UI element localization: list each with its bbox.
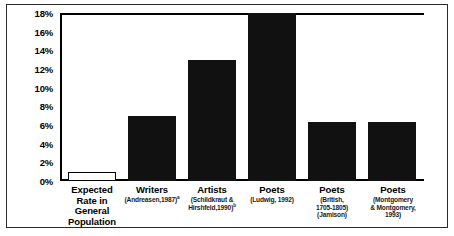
y-tick-14: 14% <box>35 45 53 56</box>
bar-artists <box>188 60 236 181</box>
y-tick-12: 12% <box>35 64 53 75</box>
y-tick-10: 10% <box>35 82 53 93</box>
bar-slot-poets-ludwig <box>248 13 296 181</box>
y-tick-0: 0% <box>40 176 53 187</box>
bar-poets-jamison <box>308 122 356 181</box>
bar-slot-artists <box>188 13 236 181</box>
bar-chart-figure: 18% 16% 14% 12% 10% 8% 6% 4% 2% 0% <box>0 0 454 236</box>
x-label-poets-montgomery-main: Poets <box>354 185 432 196</box>
bar-poets-ludwig <box>248 13 296 181</box>
bar-slot-expected-rate <box>68 13 116 181</box>
x-label-poets-montgomery: Poets (Montgomery & Montgomery, 1993) <box>354 185 432 218</box>
y-tick-8: 8% <box>40 101 53 112</box>
y-tick-18: 18% <box>35 8 53 19</box>
y-tick-4: 4% <box>40 138 53 149</box>
bar-slot-writers <box>128 13 176 181</box>
x-label-artists-citation-line2-text: Hirshfeld,1990) <box>188 204 233 211</box>
y-tick-16: 16% <box>35 26 53 37</box>
bar-slot-poets-montgomery <box>368 13 416 181</box>
bars-layer <box>62 13 424 181</box>
x-label-artists-citation-line2: Hirshfeld,1990)b <box>172 204 252 211</box>
bar-poets-montgomery <box>368 122 416 181</box>
x-label-expected-line4: Population <box>54 217 130 228</box>
x-axis-labels: Expected Rate in General Population Writ… <box>62 185 424 235</box>
bar-writers <box>128 116 176 181</box>
x-label-poets-montgomery-citation-line2: & Montgomery, <box>354 204 432 211</box>
x-label-poets-montgomery-citation-line3: 1993) <box>354 211 432 218</box>
y-axis: 18% 16% 14% 12% 10% 8% 6% 4% 2% 0% <box>0 13 58 181</box>
x-label-writers-citation-text: (Andreasen,1987) <box>125 196 178 203</box>
bar-slot-poets-jamison <box>308 13 356 181</box>
y-tick-6: 6% <box>40 120 53 131</box>
y-tick-2: 2% <box>40 157 53 168</box>
x-label-poets-montgomery-citation-line1: (Montgomery <box>354 196 432 203</box>
bar-expected-rate <box>68 172 116 181</box>
